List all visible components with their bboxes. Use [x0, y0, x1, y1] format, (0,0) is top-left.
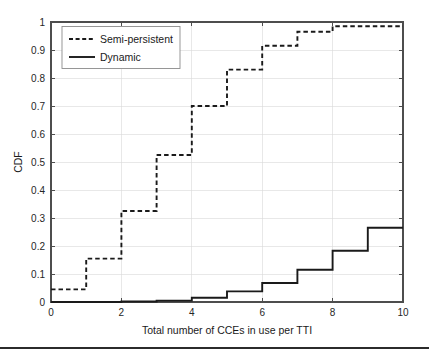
- ytick-label: 0.8: [31, 73, 45, 84]
- series-dynamic: [51, 228, 403, 302]
- xtick-label: 10: [397, 307, 409, 318]
- legend-label-dynamic: Dynamic: [100, 51, 141, 63]
- legend-label-semi-persistent: Semi-persistent: [100, 33, 173, 45]
- ytick-label: 0.3: [31, 213, 45, 224]
- ytick-label: 0.1: [31, 269, 45, 280]
- ytick-label: 0.9: [31, 45, 45, 56]
- y-axis-title: CDF: [12, 151, 24, 173]
- ytick-label: 0.5: [31, 157, 45, 168]
- xtick-label: 4: [189, 307, 195, 318]
- ytick-label: 0.7: [31, 101, 45, 112]
- xtick-label: 8: [330, 307, 336, 318]
- ytick-label: 1: [39, 17, 45, 28]
- xtick-label: 6: [259, 307, 265, 318]
- xtick-label: 2: [119, 307, 125, 318]
- ytick-label: 0.6: [31, 129, 45, 140]
- ytick-label: 0.2: [31, 241, 45, 252]
- x-axis-tick-labels: 0246810: [48, 307, 409, 318]
- figure-canvas: 00.10.20.30.40.50.60.70.80.91 0246810 CD…: [0, 0, 429, 360]
- ytick-label: 0: [39, 297, 45, 308]
- chart-legend[interactable]: Semi-persistent Dynamic: [62, 27, 180, 69]
- cdf-chart: 00.10.20.30.40.50.60.70.80.91 0246810 CD…: [0, 0, 429, 360]
- x-axis-title: Total number of CCEs in use per TTI: [142, 324, 312, 336]
- xtick-label: 0: [48, 307, 54, 318]
- y-axis-tick-labels: 00.10.20.30.40.50.60.70.80.91: [31, 17, 45, 308]
- footer-divider: [0, 347, 429, 349]
- ytick-label: 0.4: [31, 185, 45, 196]
